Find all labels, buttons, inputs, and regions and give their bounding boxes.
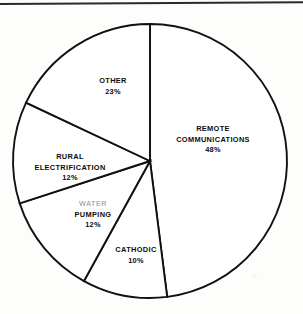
pie-chart-figure: REMOTE COMMUNICATIONS 48% CATHODIC 10% W…	[0, 0, 303, 314]
pie-chart-svg	[0, 0, 303, 314]
pie-slices-group	[13, 24, 287, 298]
pie-slice-remote-communications	[150, 24, 287, 297]
